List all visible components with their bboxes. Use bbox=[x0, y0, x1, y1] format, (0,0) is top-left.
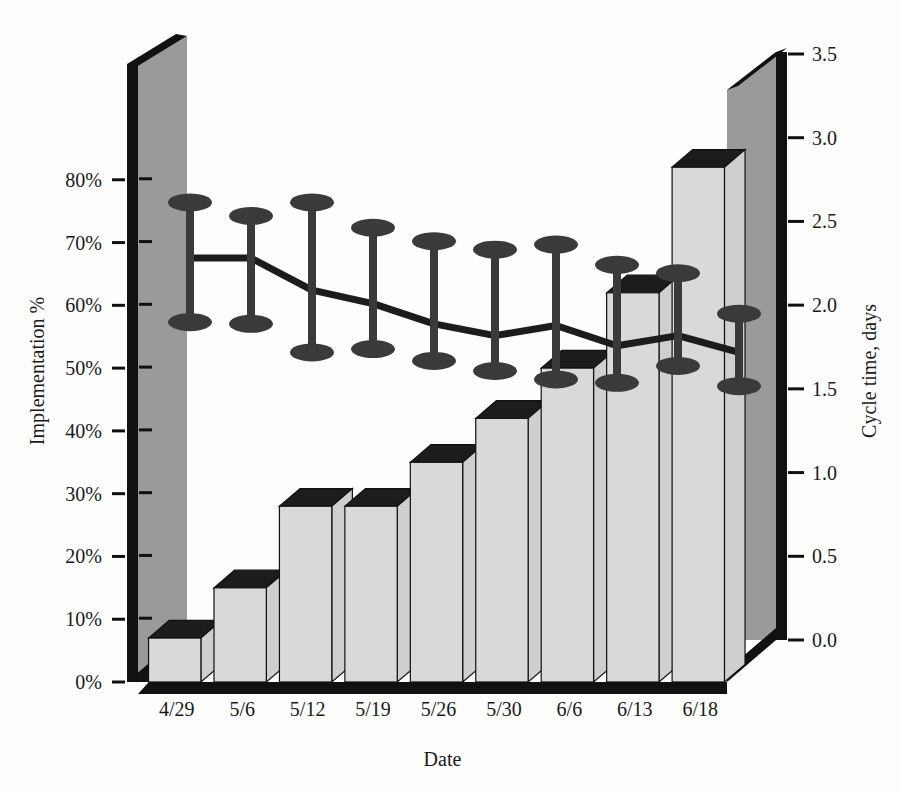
error-bar-cap-high bbox=[473, 241, 517, 259]
x-axis-category-label: 5/30 bbox=[486, 698, 522, 720]
y2-axis-tick-label: 0.0 bbox=[812, 629, 837, 651]
error-bar-stem bbox=[735, 314, 743, 386]
y2-axis-tick-label: 1.0 bbox=[812, 462, 837, 484]
error-bar-cap-high bbox=[412, 232, 456, 250]
y-axis-tick-label: 60% bbox=[65, 294, 102, 316]
error-bar-stem bbox=[308, 202, 316, 352]
y2-axis-tick-label: 2.0 bbox=[812, 294, 837, 316]
y2-axis-tick-label: 3.0 bbox=[812, 127, 837, 149]
y-axis-tick-label: 30% bbox=[65, 483, 102, 505]
left-wall-panel bbox=[138, 36, 187, 682]
y-axis-title: Implementation % bbox=[26, 297, 49, 445]
bar-front-face bbox=[279, 506, 331, 682]
y2-axis-tick-label: 2.5 bbox=[812, 210, 837, 232]
bar-front-face bbox=[149, 638, 201, 682]
error-bar-cap-low bbox=[290, 343, 334, 361]
right-wall-back-beam bbox=[776, 52, 787, 640]
x-axis-title: Date bbox=[424, 748, 462, 770]
x-axis-category-label: 6/13 bbox=[617, 698, 653, 720]
error-bar-stem bbox=[369, 228, 377, 349]
y2-axis-tick-label: 1.5 bbox=[812, 378, 837, 400]
y-axis-tick-label: 0% bbox=[75, 671, 102, 693]
error-bar-stem bbox=[430, 241, 438, 361]
error-bar-cap-low bbox=[229, 315, 273, 333]
x-axis-category-label: 4/29 bbox=[159, 698, 195, 720]
error-bar-stem bbox=[491, 250, 499, 371]
bar-front-face bbox=[541, 368, 593, 682]
x-axis-category-label: 5/6 bbox=[229, 698, 255, 720]
y-axis-tick-label: 20% bbox=[65, 545, 102, 567]
bar-front-face bbox=[410, 462, 462, 682]
error-bar-cap-low bbox=[473, 362, 517, 380]
x-axis-category-label: 6/18 bbox=[682, 698, 718, 720]
y-axis-tick-label: 80% bbox=[65, 169, 102, 191]
error-bar-stem bbox=[186, 202, 194, 322]
x-axis-category-label: 5/19 bbox=[355, 698, 391, 720]
y2-axis-tick-label: 3.5 bbox=[812, 43, 837, 65]
y-axis-tick-label: 10% bbox=[65, 608, 102, 630]
error-bar-cap-high bbox=[595, 256, 639, 274]
bar-front-face bbox=[476, 418, 528, 682]
bar-front-face bbox=[345, 506, 397, 682]
error-bar-cap-high bbox=[717, 305, 761, 323]
error-bar-cap-high bbox=[534, 236, 578, 254]
error-bar-cap-low bbox=[595, 374, 639, 392]
error-bar-cap-low bbox=[351, 340, 395, 358]
error-bar-cap-high bbox=[229, 207, 273, 225]
error-bar-stem bbox=[552, 245, 560, 380]
y2-axis-tick-label: 0.5 bbox=[812, 545, 837, 567]
error-bar-cap-low bbox=[656, 357, 700, 375]
error-bar-cap-high bbox=[168, 193, 212, 211]
bar-front-face bbox=[672, 167, 724, 682]
x-axis-category-label: 5/12 bbox=[290, 698, 326, 720]
x-axis-category-label: 5/26 bbox=[421, 698, 457, 720]
error-bar-cap-high bbox=[290, 193, 334, 211]
chart-figure: 0%10%20%30%40%50%60%70%80%Implementation… bbox=[0, 0, 901, 794]
y2-axis-title: Cycle time, days bbox=[858, 304, 881, 438]
y-axis-tick-label: 50% bbox=[65, 357, 102, 379]
y-axis-tick-label: 40% bbox=[65, 420, 102, 442]
left-wall-front-beam bbox=[127, 64, 138, 682]
error-bar-cap-high bbox=[656, 264, 700, 282]
bar-front-face bbox=[214, 588, 266, 682]
x-axis-category-label: 6/6 bbox=[557, 698, 583, 720]
error-bar-cap-high bbox=[351, 219, 395, 237]
error-bar-stem bbox=[613, 265, 621, 383]
error-bar-cap-low bbox=[168, 313, 212, 331]
error-bar-cap-low bbox=[412, 352, 456, 370]
y-axis-tick-label: 70% bbox=[65, 232, 102, 254]
error-bar-stem bbox=[674, 273, 682, 366]
bar-side-face bbox=[724, 150, 745, 682]
error-bar-stem bbox=[247, 216, 255, 324]
error-bar-cap-low bbox=[534, 370, 578, 388]
combination-chart-canvas: 0%10%20%30%40%50%60%70%80%Implementation… bbox=[0, 0, 901, 794]
error-bar-cap-low bbox=[717, 377, 761, 395]
